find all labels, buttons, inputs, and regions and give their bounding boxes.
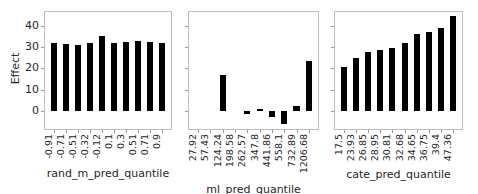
- bar[interactable]: [293, 106, 299, 111]
- x-tick-mark: [66, 130, 67, 133]
- x-tick-mark: [223, 130, 224, 133]
- bar[interactable]: [414, 34, 420, 111]
- x-tick-mark: [210, 130, 211, 133]
- x-tick-label: -0.71: [56, 134, 66, 194]
- y-tick-mark: [41, 47, 44, 48]
- x-tick-label: 0.9: [152, 134, 162, 194]
- x-tick-label: 0.51: [128, 134, 138, 194]
- y-tick-mark: [185, 26, 188, 27]
- y-tick-mark: [41, 111, 44, 112]
- y-tick-mark: [331, 47, 334, 48]
- y-axis-label: Effect: [9, 49, 22, 89]
- x-tick-mark: [284, 130, 285, 133]
- y-tick-label: 0: [17, 105, 39, 117]
- x-tick-label: -0.91: [44, 134, 54, 194]
- bar[interactable]: [365, 52, 371, 111]
- x-tick-mark: [247, 130, 248, 133]
- bar[interactable]: [389, 48, 395, 111]
- y-tick-mark: [331, 68, 334, 69]
- y-tick-mark: [41, 90, 44, 91]
- bar[interactable]: [220, 75, 226, 111]
- x-axis-label: rand_m_pred_quantile: [44, 167, 172, 180]
- x-tick-mark: [126, 130, 127, 133]
- y-tick-mark: [331, 90, 334, 91]
- x-tick-mark: [392, 130, 393, 133]
- bar[interactable]: [111, 43, 117, 111]
- x-axis-label: cate_pred_quantile: [334, 168, 463, 181]
- x-tick-label: -0.12: [92, 134, 102, 194]
- x-tick-label: 47.36: [443, 134, 453, 194]
- y-tick-mark: [41, 68, 44, 69]
- bar[interactable]: [63, 44, 69, 111]
- y-tick-mark: [185, 68, 188, 69]
- x-tick-label: 0.1: [104, 134, 114, 194]
- bar[interactable]: [87, 43, 93, 111]
- x-tick-label: 34.65: [407, 134, 417, 194]
- x-tick-mark: [380, 130, 381, 133]
- bar[interactable]: [51, 43, 57, 111]
- x-tick-mark: [368, 130, 369, 133]
- bar[interactable]: [257, 109, 263, 111]
- x-tick-label: 39.4: [431, 134, 441, 194]
- x-tick-mark: [114, 130, 115, 133]
- bar[interactable]: [341, 67, 347, 111]
- x-tick-label: -0.32: [80, 134, 90, 194]
- x-tick-label: 28.95: [370, 134, 380, 194]
- x-tick-label: 32.68: [395, 134, 405, 194]
- y-tick-mark: [331, 26, 334, 27]
- y-tick-mark: [331, 111, 334, 112]
- x-tick-mark: [235, 130, 236, 133]
- x-tick-mark: [102, 130, 103, 133]
- bar[interactable]: [353, 58, 359, 111]
- x-tick-label: 30.81: [382, 134, 392, 194]
- x-tick-mark: [90, 130, 91, 133]
- bar[interactable]: [99, 36, 105, 111]
- x-tick-mark: [309, 130, 310, 133]
- bar[interactable]: [75, 45, 81, 111]
- x-tick-mark: [405, 130, 406, 133]
- x-tick-mark: [138, 130, 139, 133]
- y-tick-mark: [185, 47, 188, 48]
- x-tick-mark: [78, 130, 79, 133]
- x-axis-label: ml_pred_quantile: [188, 183, 319, 194]
- bar[interactable]: [438, 28, 444, 111]
- x-tick-mark: [429, 130, 430, 133]
- bar[interactable]: [426, 32, 432, 111]
- bar[interactable]: [147, 42, 153, 111]
- x-tick-mark: [162, 130, 163, 133]
- x-tick-label: 26.85: [358, 134, 368, 194]
- bar[interactable]: [269, 111, 275, 117]
- x-tick-mark: [453, 130, 454, 133]
- y-tick-label: 40: [17, 20, 39, 32]
- x-tick-mark: [441, 130, 442, 133]
- bar[interactable]: [281, 111, 287, 124]
- bar[interactable]: [159, 43, 165, 111]
- bar[interactable]: [135, 41, 141, 111]
- x-tick-label: 36.75: [419, 134, 429, 194]
- bar[interactable]: [402, 43, 408, 111]
- bar[interactable]: [377, 50, 383, 111]
- x-tick-label: 23.93: [346, 134, 356, 194]
- x-tick-mark: [297, 130, 298, 133]
- chart-panel-2: [188, 11, 319, 130]
- x-tick-mark: [344, 130, 345, 133]
- bar[interactable]: [306, 61, 312, 111]
- x-tick-mark: [54, 130, 55, 133]
- x-tick-mark: [198, 130, 199, 133]
- x-tick-mark: [272, 130, 273, 133]
- x-tick-mark: [260, 130, 261, 133]
- x-tick-mark: [356, 130, 357, 133]
- x-tick-label: 0.3: [116, 134, 126, 194]
- y-tick-mark: [185, 111, 188, 112]
- bar[interactable]: [450, 16, 456, 111]
- bar[interactable]: [244, 111, 250, 114]
- x-tick-label: 17.5: [334, 134, 344, 194]
- y-tick-mark: [185, 90, 188, 91]
- x-tick-label: -0.51: [68, 134, 78, 194]
- y-tick-mark: [41, 26, 44, 27]
- x-tick-mark: [417, 130, 418, 133]
- bar[interactable]: [123, 42, 129, 111]
- x-tick-label: 0.71: [140, 134, 150, 194]
- x-tick-mark: [150, 130, 151, 133]
